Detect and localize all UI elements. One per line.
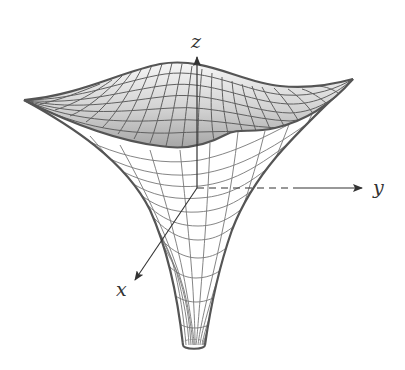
y-axis-label: y <box>373 178 384 197</box>
surface-diagram <box>0 0 405 370</box>
inner-top-surface <box>24 62 353 147</box>
bottom-opening-front <box>183 345 205 349</box>
z-axis-label: z <box>191 32 201 51</box>
x-axis-label: x <box>116 280 127 299</box>
